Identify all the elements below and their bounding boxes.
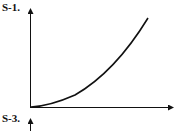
diagram-canvas [0,0,175,131]
s1-curve [31,18,148,107]
